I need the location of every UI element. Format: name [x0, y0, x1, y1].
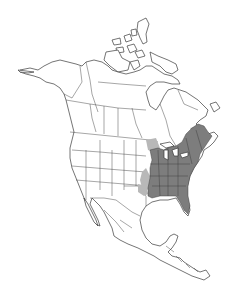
range-map — [0, 0, 240, 295]
arctic-islands — [104, 18, 178, 74]
